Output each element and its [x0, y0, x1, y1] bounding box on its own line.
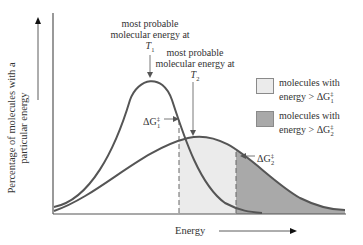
legend-text-dg2: molecules with energy > ΔG‡2: [279, 110, 340, 139]
t1-annotation-line2: molecular energy at: [105, 29, 195, 40]
t2-annotation: most probable molecular energy at T2: [150, 47, 240, 84]
t2-annotation-symbol: T2: [150, 69, 240, 84]
dg1-label: ΔG‡1: [143, 113, 160, 131]
t2-annotation-line2: molecular energy at: [150, 58, 240, 69]
y-label-arrowhead-icon: [35, 17, 41, 24]
x-axis-label: Energy: [175, 225, 205, 236]
y-axis-label: Percentage of molecules with a particula…: [6, 38, 36, 218]
legend-item-dg2: molecules with energy > ΔG‡2: [256, 110, 340, 139]
y-axis-label-line1: Percentage of molecules with a: [6, 38, 18, 218]
t2-pointer-arrowhead-icon: [190, 130, 196, 136]
x-label-arrowhead-icon: [290, 228, 297, 234]
legend-swatch-dark: [256, 111, 274, 127]
legend-swatch-light: [256, 78, 274, 94]
y-axis-label-line2: particular energy: [18, 38, 30, 218]
legend-item-dg1: molecules with energy > ΔG‡1: [256, 77, 340, 106]
t2-annotation-line1: most probable: [150, 47, 240, 58]
t1-annotation-line1: most probable: [105, 18, 195, 29]
legend-text-dg1: molecules with energy > ΔG‡1: [279, 77, 340, 106]
dg2-label: ΔG‡2: [257, 150, 274, 168]
